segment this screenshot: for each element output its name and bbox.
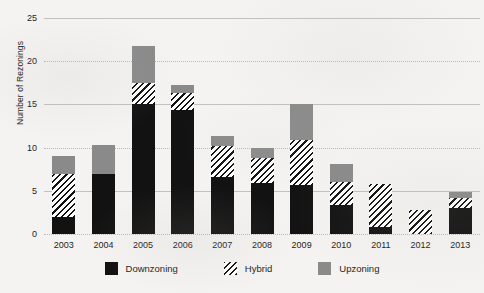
x-axis-tick-label: 2011: [371, 240, 390, 250]
bar-segment-downzoning[interactable]: [330, 205, 353, 234]
bar-segment-hybrid[interactable]: [449, 198, 472, 208]
hatched-swatch: [224, 262, 237, 275]
bar-group[interactable]: [132, 18, 155, 234]
bar-segment-downzoning[interactable]: [52, 217, 75, 234]
y-axis-tick-label: 10: [27, 143, 37, 153]
x-axis-tick-label: 2008: [252, 240, 272, 250]
x-axis-tick-label: 2012: [411, 240, 431, 250]
bar-segment-downzoning[interactable]: [211, 177, 234, 234]
x-axis-tick-label: 2013: [450, 240, 470, 250]
bar-segment-upzoning[interactable]: [251, 148, 274, 158]
y-axis-tick-label: 0: [32, 229, 37, 239]
bar-segment-hybrid[interactable]: [211, 146, 234, 177]
bar-segment-upzoning[interactable]: [92, 145, 115, 174]
bar-segment-downzoning[interactable]: [449, 208, 472, 234]
legend-label: Upzoning: [339, 263, 379, 274]
bar-segment-hybrid[interactable]: [52, 174, 75, 217]
gridline: [44, 234, 480, 235]
bar-group[interactable]: [409, 18, 432, 234]
bar-segment-downzoning[interactable]: [290, 185, 313, 234]
solid-black-swatch: [105, 262, 118, 275]
legend-item[interactable]: Hybrid: [224, 262, 272, 275]
y-axis-title: Number of Rezonings: [15, 18, 25, 148]
bar-segment-hybrid[interactable]: [251, 158, 274, 183]
bar-segment-hybrid[interactable]: [132, 83, 155, 105]
bar-segment-downzoning[interactable]: [92, 174, 115, 234]
x-axis-tick-label: 2009: [292, 240, 312, 250]
y-axis-tick-label: 5: [32, 186, 37, 196]
solid-gray-swatch: [318, 262, 331, 275]
bar-group[interactable]: [211, 18, 234, 234]
bar-segment-hybrid[interactable]: [409, 210, 432, 234]
bar-segment-upzoning[interactable]: [330, 164, 353, 182]
legend-label: Hybrid: [245, 263, 272, 274]
bar-group[interactable]: [290, 18, 313, 234]
legend-label: Downzoning: [126, 263, 178, 274]
stacked-bar-chart: Number of Rezonings 0510152025 200320042…: [0, 0, 484, 293]
bar-segment-upzoning[interactable]: [211, 136, 234, 146]
legend-item[interactable]: Upzoning: [318, 262, 379, 275]
bar-segment-hybrid[interactable]: [290, 140, 313, 185]
bar-segment-upzoning[interactable]: [449, 192, 472, 198]
chart-legend: DownzoningHybridUpzoning: [0, 262, 484, 275]
bar-group[interactable]: [449, 18, 472, 234]
x-axis-tick-label: 2007: [212, 240, 232, 250]
bar-segment-downzoning[interactable]: [132, 104, 155, 234]
plot-area: 0510152025 20032004200520062007200820092…: [44, 18, 480, 234]
bar-segment-hybrid[interactable]: [171, 93, 194, 110]
bar-segment-upzoning[interactable]: [171, 85, 194, 93]
x-axis-tick-label: 2005: [133, 240, 153, 250]
x-axis-tick-label: 2010: [331, 240, 351, 250]
bar-group[interactable]: [52, 18, 75, 234]
bar-group[interactable]: [251, 18, 274, 234]
y-axis-tick-label: 15: [27, 99, 37, 109]
bar-segment-downzoning[interactable]: [369, 227, 392, 234]
x-axis-tick-label: 2004: [93, 240, 113, 250]
bar-group[interactable]: [369, 18, 392, 234]
bar-segment-hybrid[interactable]: [330, 182, 353, 204]
legend-item[interactable]: Downzoning: [105, 262, 178, 275]
x-axis-tick-label: 2006: [173, 240, 193, 250]
y-axis-tick-label: 20: [27, 56, 37, 66]
x-axis-tick-label: 2003: [54, 240, 74, 250]
bar-group[interactable]: [330, 18, 353, 234]
bar-group[interactable]: [92, 18, 115, 234]
bar-segment-downzoning[interactable]: [171, 110, 194, 234]
bar-group[interactable]: [171, 18, 194, 234]
bar-segment-upzoning[interactable]: [52, 156, 75, 173]
bars-layer: [44, 18, 480, 234]
bar-segment-hybrid[interactable]: [369, 184, 392, 227]
y-axis-tick-label: 25: [27, 13, 37, 23]
bar-segment-upzoning[interactable]: [290, 104, 313, 139]
bar-segment-downzoning[interactable]: [251, 183, 274, 234]
bar-segment-upzoning[interactable]: [132, 46, 155, 83]
